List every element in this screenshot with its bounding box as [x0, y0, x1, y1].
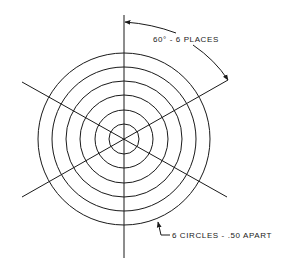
angle-leader-right — [193, 45, 228, 80]
angle-label: 60° - 6 PLACES — [153, 35, 219, 44]
diagonal-line-lower-left-to-upper-right — [22, 80, 228, 197]
circle-label: 6 CIRCLES - .50 APART — [172, 231, 272, 240]
radial-lines — [22, 15, 228, 258]
circle-leader — [158, 222, 170, 235]
angle-leader-left — [125, 22, 176, 33]
circle-spacing-callout: 6 CIRCLES - .50 APART — [158, 222, 272, 240]
polar-grid-drawing: 60° - 6 PLACES 6 CIRCLES - .50 APART — [0, 0, 292, 267]
